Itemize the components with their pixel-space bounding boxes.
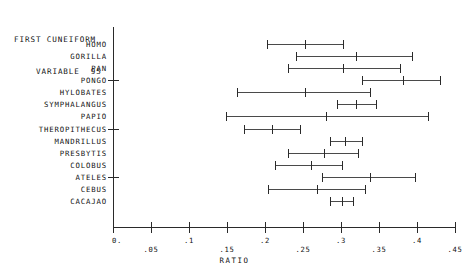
mean-marker — [345, 137, 346, 146]
min-marker — [337, 100, 338, 109]
category-label: ATELES — [76, 173, 107, 182]
max-marker — [353, 197, 354, 206]
x-tick-label: .35 — [372, 245, 387, 254]
range-line — [288, 68, 400, 69]
category-label: MANDRILLUS — [55, 136, 107, 145]
category-label: GORILLA — [70, 51, 107, 60]
x-tick — [455, 222, 456, 233]
y-tick — [108, 129, 119, 130]
x-tick-label: .1 — [184, 236, 194, 245]
min-marker — [237, 88, 238, 97]
category-label: HOMO — [86, 39, 107, 48]
range-line — [237, 92, 370, 93]
x-tick — [379, 222, 380, 233]
category-label: SYMPHALANGUS — [44, 100, 107, 109]
mean-marker — [272, 125, 273, 134]
x-tick-label: .45 — [448, 245, 463, 254]
range-line — [288, 153, 358, 154]
mean-marker — [317, 185, 318, 194]
category-label: CACAJAO — [70, 197, 107, 206]
range-line — [275, 165, 342, 166]
mean-marker — [403, 76, 404, 85]
x-tick — [341, 222, 342, 233]
max-marker — [358, 149, 359, 158]
x-tick — [151, 222, 152, 233]
range-line — [322, 177, 415, 178]
x-tick — [303, 222, 304, 233]
x-tick — [189, 222, 190, 233]
category-label: PAPIO — [81, 112, 107, 121]
mean-marker — [305, 40, 306, 49]
min-marker — [296, 52, 297, 61]
category-label: HYLOBATES — [60, 88, 107, 97]
category-label: PONGO — [81, 75, 107, 84]
max-marker — [343, 40, 344, 49]
range-line — [362, 80, 440, 81]
mean-marker — [356, 52, 357, 61]
category-label-column: HOMOGORILLAPANPONGOHYLOBATESSYMPHALANGUS… — [0, 0, 107, 269]
min-marker — [322, 173, 323, 182]
max-marker — [440, 76, 441, 85]
max-marker — [376, 100, 377, 109]
x-tick — [113, 222, 114, 233]
max-marker — [412, 52, 413, 61]
min-marker — [275, 161, 276, 170]
x-tick — [417, 222, 418, 233]
mean-marker — [342, 197, 343, 206]
min-marker — [244, 125, 245, 134]
mean-marker — [326, 112, 327, 121]
category-label: CEBUS — [81, 185, 107, 194]
min-marker — [330, 197, 331, 206]
x-tick — [265, 222, 266, 233]
min-marker — [268, 185, 269, 194]
min-marker — [226, 112, 227, 121]
x-tick-label: .25 — [296, 245, 311, 254]
category-label: COLOBUS — [70, 161, 107, 170]
x-tick-label: 0. — [112, 236, 122, 245]
mean-marker — [370, 173, 371, 182]
max-marker — [400, 64, 401, 73]
x-tick-label: .3 — [336, 236, 346, 245]
min-marker — [330, 137, 331, 146]
x-axis-line — [113, 227, 455, 228]
mean-marker — [324, 149, 325, 158]
max-marker — [365, 185, 366, 194]
max-marker — [342, 161, 343, 170]
min-marker — [267, 40, 268, 49]
category-label: PAN — [91, 63, 107, 72]
range-plot: FIRST CUNEIFORM VARIABLE 95 HOMOGORILLAP… — [0, 0, 469, 269]
mean-marker — [311, 161, 312, 170]
x-tick-label: .4 — [412, 236, 422, 245]
max-marker — [370, 88, 371, 97]
min-marker — [288, 64, 289, 73]
x-axis-title: RATIO — [0, 256, 469, 265]
x-tick — [227, 222, 228, 233]
min-marker — [362, 76, 363, 85]
category-label: PRESBYTIS — [60, 148, 107, 157]
range-line — [330, 141, 362, 142]
max-marker — [428, 112, 429, 121]
x-tick-label: .2 — [260, 236, 270, 245]
x-tick-label: .15 — [220, 245, 235, 254]
category-label: THEROPITHECUS — [39, 124, 107, 133]
y-axis-line — [113, 27, 114, 227]
max-marker — [415, 173, 416, 182]
max-marker — [362, 137, 363, 146]
max-marker — [300, 125, 301, 134]
min-marker — [288, 149, 289, 158]
mean-marker — [343, 64, 344, 73]
y-tick — [108, 80, 119, 81]
mean-marker — [305, 88, 306, 97]
range-line — [296, 56, 412, 57]
mean-marker — [356, 100, 357, 109]
y-tick — [108, 177, 119, 178]
x-tick-label: .05 — [144, 245, 159, 254]
